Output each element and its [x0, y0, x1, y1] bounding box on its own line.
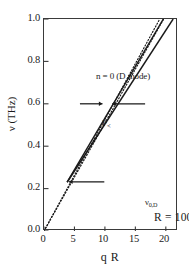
x-tick-label-0: 0	[33, 233, 53, 244]
p-less-subscript: <	[107, 122, 110, 129]
nu-zero-d-subscript: 0,D	[149, 202, 157, 208]
dispersion-plot-figure: 1.0 0.8 0.6 0.4 0.2 0.0 ν (THz) 0 5 10 1…	[0, 0, 189, 275]
x-tick-label-10: 10	[93, 233, 113, 244]
radius-annotation-label: R = 100Å	[154, 212, 189, 222]
nu-zero-d-label: ν0,D	[145, 197, 157, 210]
x-tick-label-5: 5	[63, 233, 83, 244]
x-tick-label-15: 15	[124, 233, 144, 244]
dispersion-curves-svg	[44, 19, 178, 231]
mode-annotation-label: n = 0 (D mode)	[96, 71, 150, 81]
y-tick-label-1.0: 1.0	[2, 13, 40, 23]
p-less-label: P<	[102, 118, 110, 131]
y-tick-label-0.2: 0.2	[2, 182, 40, 192]
x-axis-title: q R	[43, 250, 177, 265]
x-tick-label-20: 20	[154, 233, 174, 244]
y-axis-title: ν (THz)	[5, 82, 17, 146]
data-lines-group	[44, 19, 178, 231]
plot-area: n = 0 (D mode) R = 100Å P< Pi ν0,D	[43, 18, 177, 230]
y-tick-label-0.8: 0.8	[2, 55, 40, 65]
